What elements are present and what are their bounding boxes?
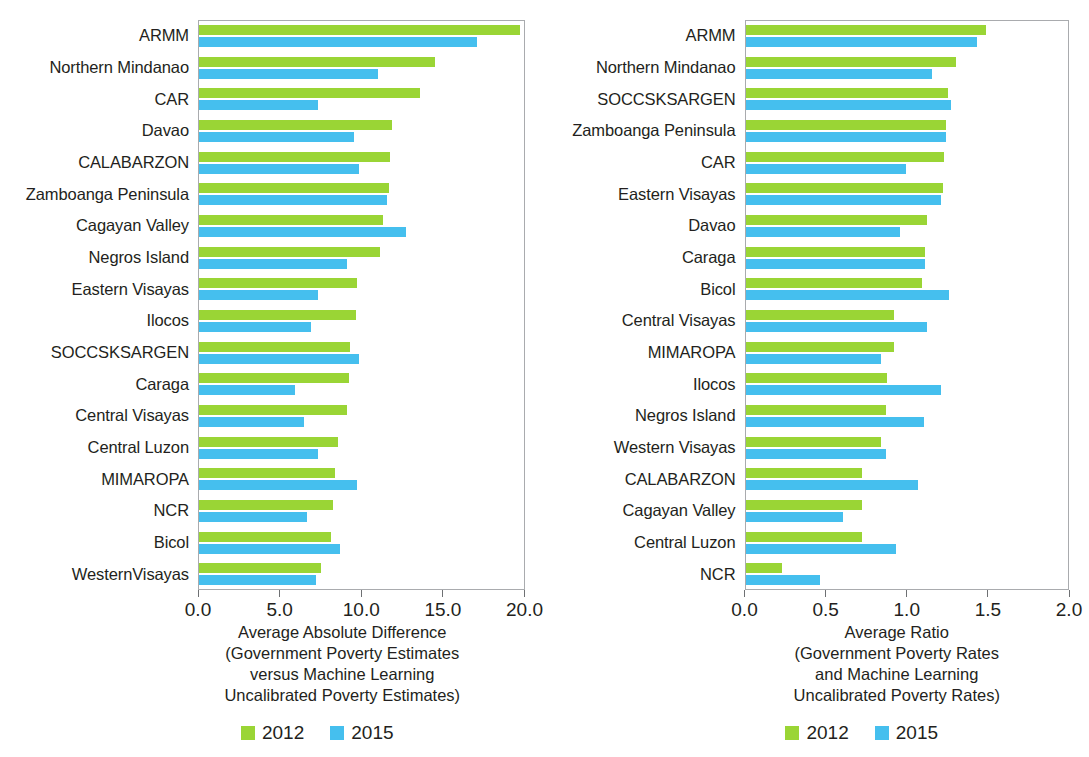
chart-row: Cagayan Valley: [545, 495, 1089, 527]
bar-group: [198, 52, 545, 84]
x-axis-title-line-3: Uncalibrated Poverty Estimates): [150, 685, 535, 706]
bar-group: [198, 368, 545, 400]
bar-2012: [745, 532, 862, 542]
chart-row: Central Luzon: [0, 432, 545, 464]
axis-tick: [279, 590, 280, 597]
chart-row: Central Luzon: [545, 527, 1089, 559]
chart-row: WesternVisayas: [0, 558, 545, 590]
bar-group: [198, 527, 545, 559]
axis-tick: [987, 590, 988, 597]
legend-right: 2012 2015: [545, 722, 1089, 744]
chart-row: Bicol: [0, 527, 545, 559]
chart-row: Eastern Visayas: [545, 178, 1089, 210]
category-label: Caraga: [545, 249, 745, 266]
bar-2012: [198, 120, 392, 130]
bar-2012: [745, 437, 881, 447]
category-label: MIMAROPA: [0, 471, 198, 488]
axis-tick: [442, 590, 443, 597]
chart-row: Central Visayas: [0, 400, 545, 432]
bar-2012: [198, 57, 435, 67]
bar-rows-left: ARMMNorthern MindanaoCARDavaoCALABARZONZ…: [0, 20, 545, 590]
bar-group: [745, 147, 1089, 179]
bar-2015: [745, 69, 933, 79]
x-axis-title-right: Average Ratio (Government Poverty Rates …: [705, 622, 1089, 706]
bar-2012: [745, 120, 947, 130]
bar-2015: [745, 132, 947, 142]
category-label: Bicol: [0, 534, 198, 551]
category-label: Negros Island: [0, 249, 198, 266]
category-label: Eastern Visayas: [545, 186, 745, 203]
bar-2012: [198, 342, 350, 352]
category-label: Davao: [545, 217, 745, 234]
category-label: CAR: [0, 91, 198, 108]
bar-group: [198, 495, 545, 527]
category-label: Davao: [0, 122, 198, 139]
axis-tick-label: 5.0: [266, 599, 292, 621]
bar-2015: [745, 449, 886, 459]
category-label: Central Visayas: [545, 312, 745, 329]
chart-row: ARMM: [545, 20, 1089, 52]
bar-group: [745, 52, 1089, 84]
bar-2015: [198, 449, 318, 459]
bar-2015: [745, 575, 821, 585]
chart-row: MIMAROPA: [0, 463, 545, 495]
bar-group: [198, 210, 545, 242]
chart-row: CALABARZON: [0, 147, 545, 179]
bar-group: [198, 20, 545, 52]
bar-2015: [745, 100, 952, 110]
chart-row: Davao: [0, 115, 545, 147]
bar-2015: [198, 354, 359, 364]
bar-2015: [745, 544, 897, 554]
bar-2012: [198, 278, 357, 288]
bar-group: [745, 400, 1089, 432]
bar-2015: [198, 575, 316, 585]
bar-group: [745, 210, 1089, 242]
category-label: Northern Mindanao: [545, 59, 745, 76]
chart-row: Central Visayas: [545, 305, 1089, 337]
chart-row: Zamboanga Peninsula: [545, 115, 1089, 147]
bar-2015: [198, 259, 347, 269]
legend-swatch-2012-icon: [785, 726, 799, 740]
chart-row: Caraga: [545, 242, 1089, 274]
bar-group: [745, 432, 1089, 464]
bar-2015: [198, 290, 318, 300]
category-label: ARMM: [545, 27, 745, 44]
chart-row: Cagayan Valley: [0, 210, 545, 242]
axis-tick-label: 20.0: [506, 599, 543, 621]
axis-tick: [198, 590, 199, 597]
bar-2015: [745, 512, 843, 522]
bar-2012: [198, 532, 331, 542]
x-axis-title-line-1: (Government Poverty Rates: [705, 643, 1089, 664]
bar-2012: [745, 88, 948, 98]
bar-group: [198, 115, 545, 147]
bar-group: [745, 337, 1089, 369]
chart-row: Ilocos: [545, 368, 1089, 400]
bar-group: [745, 20, 1089, 52]
axis-tick: [524, 590, 525, 597]
category-label: CALABARZON: [545, 471, 745, 488]
category-label: Western Visayas: [545, 439, 745, 456]
category-label: Caraga: [0, 376, 198, 393]
chart-row: Eastern Visayas: [0, 273, 545, 305]
bar-2015: [198, 322, 311, 332]
bar-group: [745, 115, 1089, 147]
bar-2015: [745, 480, 919, 490]
bar-2015: [745, 259, 926, 269]
x-axis-left: 0.05.010.015.020.0: [198, 590, 525, 620]
category-label: Zamboanga Peninsula: [545, 122, 745, 139]
axis-tick: [361, 590, 362, 597]
chart-row: SOCCSKSARGEN: [545, 83, 1089, 115]
bar-2015: [198, 100, 318, 110]
category-label: NCR: [545, 566, 745, 583]
bar-group: [745, 178, 1089, 210]
bar-2012: [198, 215, 383, 225]
bar-2012: [198, 437, 338, 447]
axis-tick-label: 0.0: [731, 599, 757, 621]
bar-group: [198, 463, 545, 495]
bar-2015: [198, 512, 307, 522]
axis-tick: [906, 590, 907, 597]
legend-swatch-2015-icon: [330, 726, 344, 740]
chart-row: SOCCSKSARGEN: [0, 337, 545, 369]
bar-2012: [745, 152, 945, 162]
chart-row: Davao: [545, 210, 1089, 242]
